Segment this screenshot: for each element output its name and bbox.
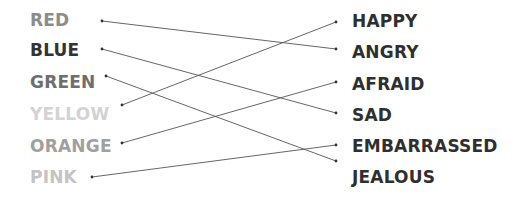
endpoint-dot — [335, 160, 338, 163]
connection-line-red-angry — [102, 21, 336, 49]
right-item-embarrassed[interactable]: EMBARRASSED — [352, 136, 498, 156]
endpoint-dot — [335, 21, 338, 24]
connection-line-pink-embarrassed — [92, 145, 336, 177]
left-item-red[interactable]: RED — [30, 10, 69, 30]
connection-lines — [0, 0, 532, 199]
left-item-yellow[interactable]: YELLOW — [30, 104, 109, 124]
connection-line-orange-afraid — [122, 82, 336, 143]
left-item-blue[interactable]: BLUE — [30, 40, 79, 60]
right-item-angry[interactable]: ANGRY — [352, 42, 419, 62]
endpoint-dot — [105, 75, 108, 78]
left-item-green[interactable]: GREEN — [30, 72, 96, 92]
right-item-happy[interactable]: HAPPY — [352, 11, 418, 31]
endpoint-dot — [101, 48, 104, 51]
endpoint-dot — [335, 81, 338, 84]
connection-line-blue-sad — [102, 49, 336, 113]
endpoint-dot — [121, 142, 124, 145]
left-item-orange[interactable]: ORANGE — [30, 136, 112, 156]
right-item-sad[interactable]: SAD — [352, 105, 392, 125]
left-item-pink[interactable]: PINK — [30, 167, 77, 187]
endpoint-dot — [335, 48, 338, 51]
endpoint-dot — [121, 104, 124, 107]
endpoint-dot — [335, 144, 338, 147]
connection-line-green-jealous — [106, 76, 336, 161]
endpoint-dot — [91, 176, 94, 179]
endpoint-dot — [101, 20, 104, 23]
right-item-jealous[interactable]: JEALOUS — [352, 167, 435, 187]
endpoint-dot — [335, 112, 338, 115]
right-item-afraid[interactable]: AFRAID — [352, 74, 425, 94]
